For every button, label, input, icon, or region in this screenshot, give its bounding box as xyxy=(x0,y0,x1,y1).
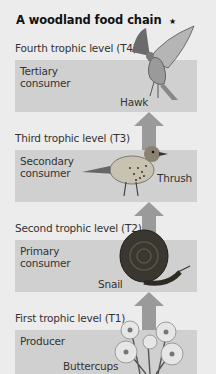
level-label-t4: Fourth trophic level (T4) xyxy=(15,42,137,54)
level-label-t1: First trophic level (T1) xyxy=(15,312,125,324)
thrush-icon xyxy=(80,138,170,198)
role-label-t4: Tertiary consumer xyxy=(20,65,90,89)
buttercup-icon xyxy=(110,314,190,374)
hawk-icon xyxy=(128,22,200,104)
role-label-t2: Primary consumer xyxy=(20,245,90,269)
snail-icon xyxy=(114,226,194,296)
role-label-t1: Producer xyxy=(20,335,90,347)
